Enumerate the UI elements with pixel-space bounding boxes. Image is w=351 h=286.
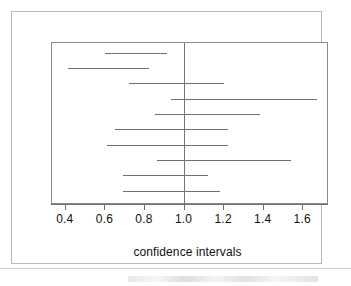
reference-line-at-one [184, 43, 185, 207]
x-tick-label: 1.4 [254, 212, 271, 226]
x-tick [65, 204, 66, 210]
x-axis: 0.40.60.81.01.21.41.6 [51, 204, 328, 205]
x-tick [223, 204, 224, 210]
x-tick-label: 0.8 [135, 212, 152, 226]
x-tick [302, 204, 303, 210]
x-tick [184, 204, 185, 210]
confidence-interval-line [107, 145, 228, 146]
confidence-interval-line [129, 83, 224, 84]
confidence-interval-line [171, 99, 317, 100]
x-tick [104, 204, 105, 210]
plot-area [51, 42, 328, 204]
confidence-interval-layer [52, 43, 327, 203]
x-tick-label: 1.6 [294, 212, 311, 226]
x-tick [144, 204, 145, 210]
confidence-interval-line [157, 160, 292, 161]
scan-artifact [128, 276, 318, 282]
confidence-interval-line [155, 114, 260, 115]
x-tick-label: 0.6 [96, 212, 113, 226]
x-tick-label: 0.4 [56, 212, 73, 226]
confidence-interval-line [123, 175, 208, 176]
confidence-interval-line [123, 191, 220, 192]
figure-frame: 0.40.60.81.01.21.41.6 confidence interva… [11, 11, 322, 264]
x-tick [263, 204, 264, 210]
confidence-interval-line [68, 68, 149, 69]
x-tick-label: 1.2 [214, 212, 231, 226]
confidence-interval-line [105, 53, 166, 54]
x-tick-label: 1.0 [175, 212, 192, 226]
x-axis-title: confidence intervals [12, 245, 351, 259]
confidence-interval-line [115, 129, 228, 130]
scan-rule [0, 268, 351, 269]
